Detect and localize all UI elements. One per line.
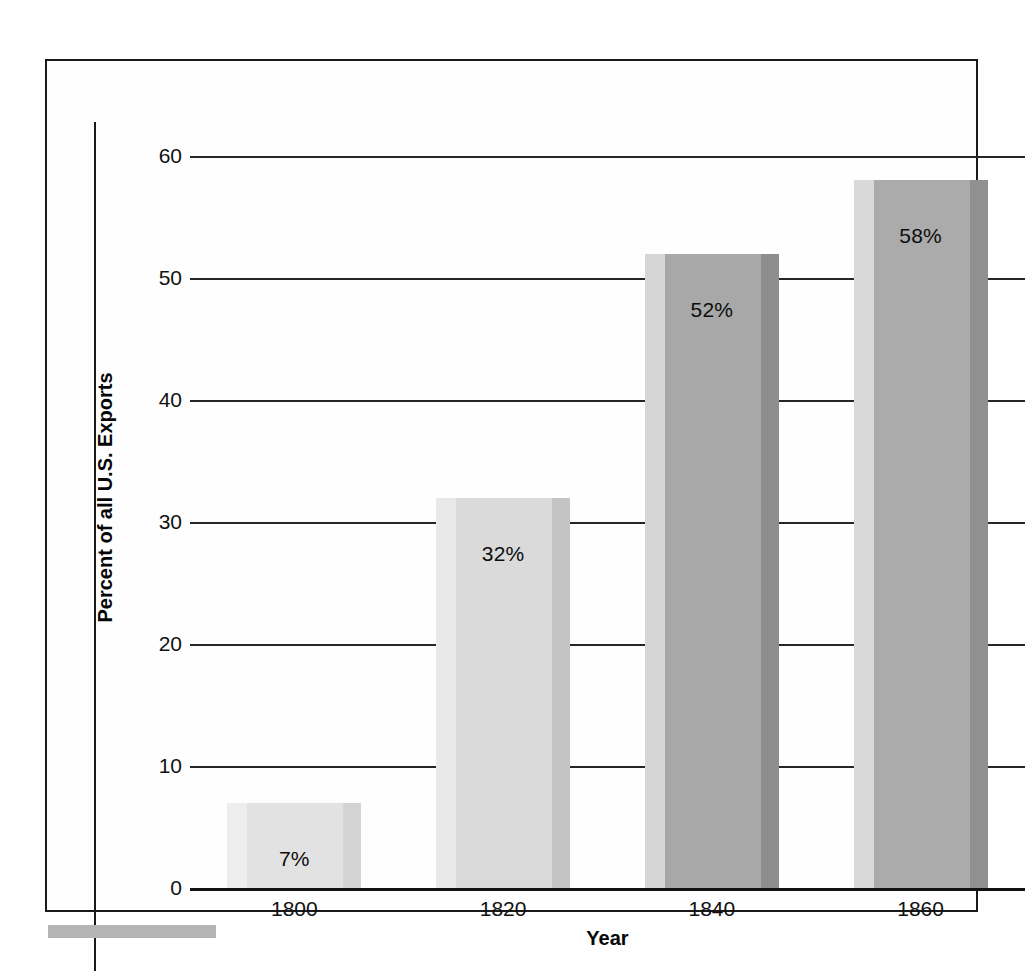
- bar: 58%: [854, 180, 988, 888]
- x-axis-tick-label: 1820: [480, 897, 527, 921]
- plot-area: 7%32%52%58%: [190, 156, 1025, 888]
- bar-shadow-edge: [761, 254, 779, 888]
- bar: 32%: [436, 498, 570, 888]
- x-axis-tick-labels: 1800182018401860: [190, 897, 1025, 927]
- x-axis-baseline: [190, 888, 1025, 891]
- scan-artifact: [48, 925, 216, 938]
- bar-value-label: 32%: [482, 542, 525, 566]
- gridline: [190, 156, 1025, 158]
- bar-face: [645, 254, 779, 888]
- bar-face: [227, 803, 361, 888]
- bar-shadow-edge: [552, 498, 570, 888]
- bar-shadow-edge: [343, 803, 361, 888]
- y-axis-tick-label: 0: [170, 876, 182, 900]
- bar-shadow-edge: [970, 180, 988, 888]
- x-axis-tick-label: 1800: [271, 897, 318, 921]
- y-axis-title: Percent of all U.S. Exports: [94, 383, 117, 623]
- bar-highlight-edge: [227, 803, 247, 888]
- bar-highlight-edge: [436, 498, 456, 888]
- bar-value-label: 58%: [899, 224, 942, 248]
- y-axis-tick-label: 10: [159, 754, 182, 778]
- y-axis-tick-label: 30: [159, 510, 182, 534]
- x-axis-tick-label: 1840: [689, 897, 736, 921]
- bar-face: [854, 180, 988, 888]
- y-axis-tick-label: 40: [159, 388, 182, 412]
- x-axis-title: Year: [190, 927, 1025, 950]
- bar: 7%: [227, 803, 361, 888]
- y-axis-tick-label: 60: [159, 144, 182, 168]
- figure-frame: 0102030405060 7%32%52%58% 18001820184018…: [45, 59, 978, 912]
- bar-value-label: 7%: [279, 847, 310, 871]
- bar-highlight-edge: [854, 180, 874, 888]
- bar: 52%: [645, 254, 779, 888]
- y-axis-tick-label: 50: [159, 266, 182, 290]
- x-axis-tick-label: 1860: [897, 897, 944, 921]
- bar-highlight-edge: [645, 254, 665, 888]
- y-axis-tick-label: 20: [159, 632, 182, 656]
- y-axis-tick-labels: 0102030405060: [142, 156, 182, 888]
- bar-value-label: 52%: [691, 298, 734, 322]
